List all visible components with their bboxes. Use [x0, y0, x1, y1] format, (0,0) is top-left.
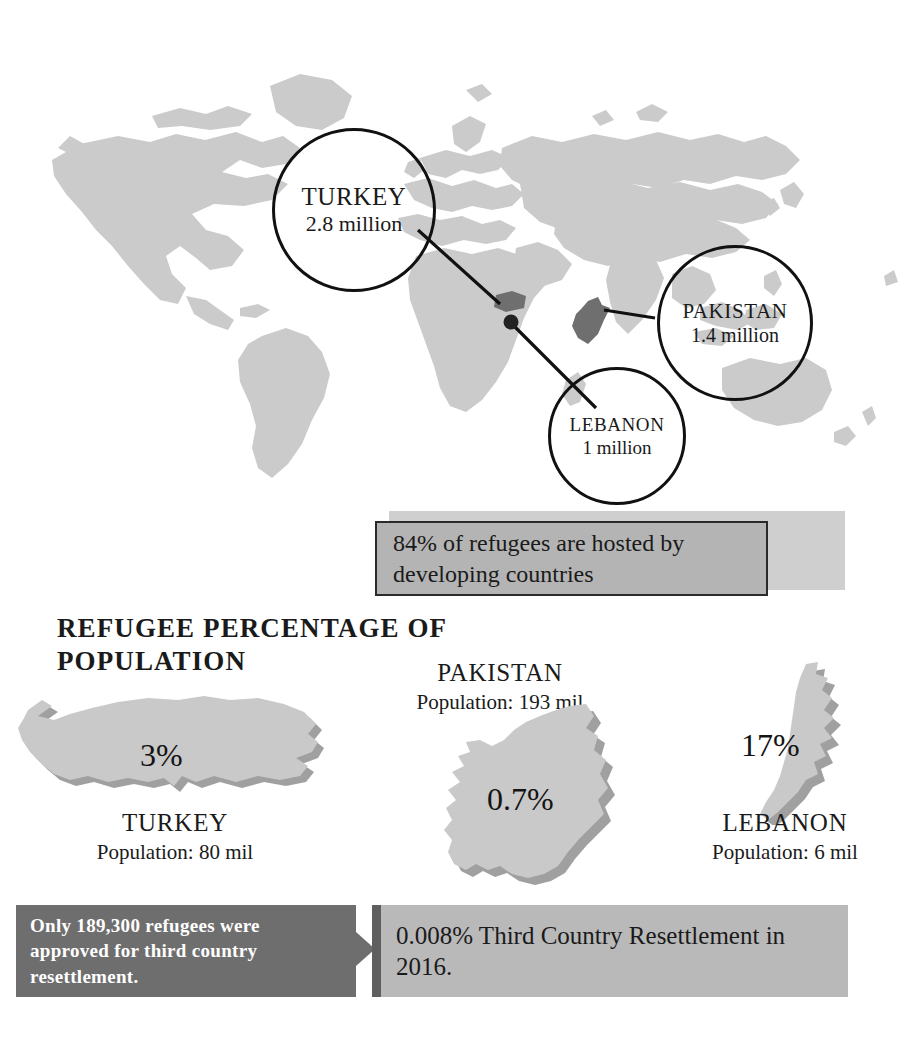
lebanon-name: LEBANON — [660, 808, 909, 839]
callout-pakistan-value: 1.4 million — [691, 324, 779, 346]
callout-turkey[interactable]: TURKEY 2.8 million — [272, 128, 436, 292]
hosted-banner: 84% of refugees are hosted by developing… — [375, 521, 768, 596]
callout-turkey-name: TURKEY — [302, 183, 407, 211]
resettlement-banner-text: Only 189,300 refugees were approved for … — [16, 913, 356, 988]
lebanon-population: Population: 6 mil — [660, 840, 909, 866]
turkey-label: TURKEY Population: 80 mil — [0, 808, 350, 865]
turkey-percent: 3% — [140, 737, 183, 774]
turkey-name: TURKEY — [0, 808, 350, 839]
resettlement-percentage-banner: 0.008% Third Country Resettlement in 201… — [372, 905, 848, 997]
lebanon-label: LEBANON Population: 6 mil — [660, 808, 909, 865]
callout-lebanon-name: LEBANON — [570, 414, 665, 435]
map-pin-lebanon — [504, 315, 519, 330]
callout-turkey-value: 2.8 million — [306, 212, 403, 237]
resettlement-percentage-banner-text: 0.008% Third Country Resettlement in 201… — [372, 920, 848, 983]
resettlement-banner: Only 189,300 refugees were approved for … — [16, 905, 356, 997]
callout-lebanon-value: 1 million — [582, 437, 651, 458]
callout-pakistan-name: PAKISTAN — [682, 300, 787, 324]
callout-pakistan[interactable]: PAKISTAN 1.4 million — [657, 245, 813, 401]
pakistan-name: PAKISTAN — [355, 658, 645, 689]
infographic-root: TURKEY 2.8 million PAKISTAN 1.4 million … — [0, 0, 909, 1043]
callout-lebanon[interactable]: LEBANON 1 million — [548, 367, 686, 505]
hosted-banner-text: 84% of refugees are hosted by developing… — [377, 528, 766, 589]
resettlement-percentage-banner-bar — [372, 905, 381, 997]
pakistan-percent: 0.7% — [487, 781, 554, 818]
lebanon-percent: 17% — [741, 727, 800, 764]
turkey-population: Population: 80 mil — [0, 840, 350, 866]
highlight-pakistan — [572, 297, 610, 344]
